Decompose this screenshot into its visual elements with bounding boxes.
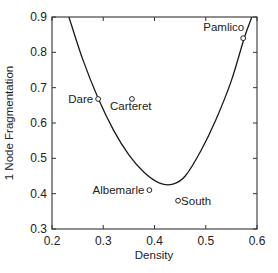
point-marker (176, 198, 181, 203)
x-tick-label: 0.6 (249, 234, 266, 248)
x-tick-label: 0.4 (146, 234, 163, 248)
plot-border (52, 17, 257, 229)
axis-ticks: 0.20.30.40.50.60.30.40.50.60.70.80.9 (30, 10, 265, 248)
y-tick-label: 0.3 (30, 222, 47, 236)
y-tick-label: 0.5 (30, 151, 47, 165)
y-tick-label: 0.7 (30, 81, 47, 95)
point-label: Dare (68, 93, 93, 105)
data-point-dare: Dare (68, 93, 100, 105)
point-label: Pamlico (203, 21, 244, 33)
point-label: South (181, 195, 211, 207)
data-point-pamlico: Pamlico (203, 21, 245, 40)
y-tick-label: 0.6 (30, 116, 47, 130)
point-marker (147, 188, 152, 193)
x-axis-label: Density (135, 249, 174, 261)
point-label: Albemarle (93, 184, 145, 196)
plot-frame (52, 17, 257, 229)
chart-canvas: 0.20.30.40.50.60.30.40.50.60.70.80.9 Dar… (0, 0, 278, 273)
point-marker (96, 97, 101, 102)
x-tick-label: 0.5 (197, 234, 214, 248)
point-label: Carteret (110, 100, 152, 112)
point-marker (241, 36, 246, 41)
data-point-carteret: Carteret (110, 97, 152, 112)
y-tick-label: 0.9 (30, 10, 47, 24)
y-axis-label: 1 Node Fragmentation (3, 66, 15, 180)
data-point-south: South (176, 195, 211, 207)
y-tick-label: 0.8 (30, 45, 47, 59)
y-tick-label: 0.4 (30, 187, 47, 201)
x-tick-label: 0.3 (95, 234, 112, 248)
data-point-albemarle: Albemarle (93, 184, 152, 196)
x-tick-label: 0.2 (44, 234, 61, 248)
